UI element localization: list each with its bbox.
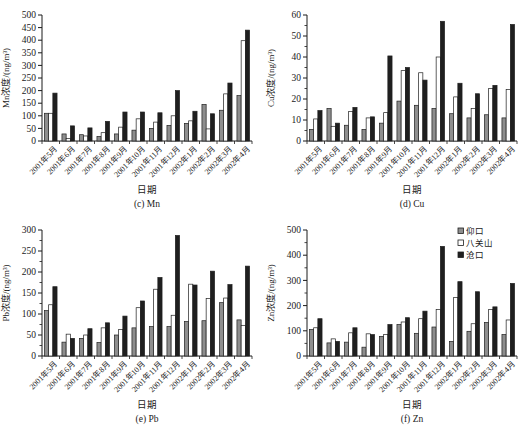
bar-pb-八关山 xyxy=(154,289,158,356)
bar-mn-沧口 xyxy=(105,121,109,141)
legend-label-3: 沧口 xyxy=(466,250,484,260)
y-tick-label: 400 xyxy=(287,250,302,260)
bar-cu-沧口 xyxy=(475,94,479,141)
legend-swatch-1 xyxy=(458,228,464,234)
bar-cu-沧口 xyxy=(423,80,427,141)
y-tick-label: 150 xyxy=(22,288,37,298)
bar-cu-沧口 xyxy=(388,56,392,141)
y-axis-title-zn: Zn浓度/(ng/m³) xyxy=(265,264,276,322)
bar-cu-八关山 xyxy=(366,118,370,141)
y-tick-label: 50 xyxy=(27,124,37,134)
bar-mn-仰口 xyxy=(149,128,153,141)
y-tick-label: 300 xyxy=(287,276,302,286)
caption-cu: (d) Cu xyxy=(400,199,425,210)
bar-pb-仰口 xyxy=(44,311,48,356)
bar-cu-沧口 xyxy=(510,24,514,141)
bar-zn-八关山 xyxy=(506,320,510,356)
bar-zn-仰口 xyxy=(432,327,436,356)
legend-swatch-3 xyxy=(458,252,464,258)
bar-pb-八关山 xyxy=(66,334,70,356)
bar-zn-仰口 xyxy=(327,343,331,356)
bar-zn-沧口 xyxy=(510,283,514,356)
y-tick-label: 50 xyxy=(27,330,37,340)
bar-zn-八关山 xyxy=(366,334,370,356)
bar-pb-八关山 xyxy=(119,330,123,356)
bar-zn-仰口 xyxy=(502,335,506,356)
bar-pb-仰口 xyxy=(219,303,223,356)
bar-cu-八关山 xyxy=(454,97,458,141)
bar-pb-八关山 xyxy=(136,308,140,356)
y-tick-label: 30 xyxy=(292,73,302,83)
bar-zn-八关山 xyxy=(384,335,388,356)
bar-mn-八关山 xyxy=(154,122,158,141)
bar-cu-仰口 xyxy=(502,118,506,141)
bar-pb-仰口 xyxy=(184,322,188,356)
bar-pb-仰口 xyxy=(62,342,66,356)
y-tick-label: 300 xyxy=(22,61,37,71)
y-tick-label: 100 xyxy=(287,326,302,336)
bar-pb-仰口 xyxy=(114,335,118,356)
bar-cu-八关山 xyxy=(384,113,388,141)
bar-cu-仰口 xyxy=(449,114,453,141)
caption-pb: (e) Pb xyxy=(136,414,159,425)
legend: 仰口八关山沧口 xyxy=(458,226,493,260)
bar-mn-沧口 xyxy=(193,111,197,141)
bar-cu-八关山 xyxy=(314,119,318,141)
bar-cu-仰口 xyxy=(467,118,471,141)
bar-zn-仰口 xyxy=(449,341,453,356)
y-tick-label: 10 xyxy=(292,115,302,125)
bar-cu-沧口 xyxy=(440,21,444,141)
bar-zn-沧口 xyxy=(370,335,374,356)
y-tick-label: 50 xyxy=(292,31,302,41)
y-tick-label: 0 xyxy=(31,351,36,361)
bar-pb-八关山 xyxy=(224,298,228,356)
bar-pb-八关山 xyxy=(206,298,210,356)
x-axis-title-pb: 日期 xyxy=(137,400,157,410)
bar-cu-沧口 xyxy=(335,123,339,141)
bar-pb-沧口 xyxy=(70,338,74,356)
bar-cu-仰口 xyxy=(344,125,348,141)
chart-zn-svg: 01002003004005002001年5月2001年6月2001年7月200… xyxy=(265,215,529,430)
bar-zn-沧口 xyxy=(318,319,322,356)
bar-zn-仰口 xyxy=(362,347,366,356)
y-tick-label: 150 xyxy=(22,98,37,108)
chart-cu: 01020304050602001年5月2001年6月2001年7月2001年8… xyxy=(265,0,529,215)
bar-mn-八关山 xyxy=(119,127,123,141)
figure-panel: 0501001502002503003504004505002001年5月200… xyxy=(0,0,529,430)
bar-zn-仰口 xyxy=(309,330,313,356)
bar-pb-沧口 xyxy=(53,287,57,356)
chart-cu-svg: 01020304050602001年5月2001年6月2001年7月2001年8… xyxy=(265,0,529,215)
bar-pb-沧口 xyxy=(245,266,249,356)
y-axis-title-mn: Mn浓度/(ng/m³) xyxy=(0,48,11,108)
y-tick-label: 200 xyxy=(22,267,37,277)
bar-mn-八关山 xyxy=(66,138,70,141)
y-tick-label: 500 xyxy=(22,10,37,20)
bar-zn-沧口 xyxy=(388,325,392,357)
legend-label-2: 八关山 xyxy=(466,238,493,248)
y-tick-label: 0 xyxy=(31,136,36,146)
bar-mn-仰口 xyxy=(219,110,223,141)
bar-cu-沧口 xyxy=(370,117,374,141)
y-tick-label: 60 xyxy=(292,10,302,20)
bar-zn-沧口 xyxy=(423,311,427,356)
bar-cu-仰口 xyxy=(362,129,366,141)
bar-cu-八关山 xyxy=(471,108,475,141)
bar-cu-仰口 xyxy=(379,123,383,141)
bar-pb-沧口 xyxy=(140,301,144,356)
bar-pb-沧口 xyxy=(88,329,92,356)
y-axis-title-cu: Cu浓度/(ng/m³) xyxy=(265,49,276,107)
bar-mn-八关山 xyxy=(206,129,210,141)
y-tick-label: 100 xyxy=(22,309,37,319)
bar-zn-沧口 xyxy=(353,328,357,356)
y-tick-label: 300 xyxy=(22,225,37,235)
bar-cu-沧口 xyxy=(353,107,357,141)
bar-mn-沧口 xyxy=(140,112,144,141)
bar-mn-沧口 xyxy=(88,128,92,141)
x-axis-title-cu: 日期 xyxy=(402,185,422,195)
bar-cu-八关山 xyxy=(331,126,335,141)
bar-zn-沧口 xyxy=(458,282,462,356)
y-tick-label: 40 xyxy=(292,52,302,62)
bar-mn-八关山 xyxy=(84,136,88,141)
bar-pb-仰口 xyxy=(132,328,136,356)
bar-cu-八关山 xyxy=(489,89,493,142)
